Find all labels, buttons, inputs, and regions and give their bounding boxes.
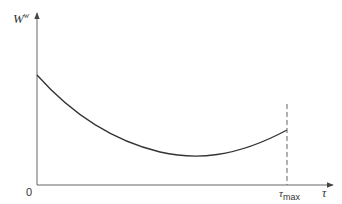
chart: Ww 0 τmax τ <box>0 0 342 204</box>
origin-label: 0 <box>26 186 32 198</box>
curve-line <box>37 75 287 156</box>
x-axis-label: τ <box>322 186 327 200</box>
tau-max-label: τmax <box>279 187 300 202</box>
y-axis-label: Ww <box>13 11 30 26</box>
